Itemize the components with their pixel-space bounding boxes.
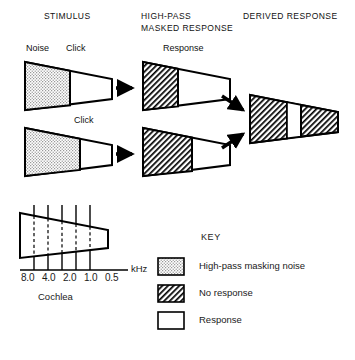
label-click-row2: Click: [74, 116, 94, 125]
label-response: Response: [163, 44, 204, 53]
diagram-graphics: [0, 0, 355, 360]
key-swatch-response: [158, 312, 184, 329]
cochlea-trapezoid: [20, 205, 128, 270]
cochlea-label: Cochlea: [38, 292, 73, 302]
column-heading-derived-response: DERIVED RESPONSE: [243, 12, 338, 21]
arrow-row2-to-derived: [222, 134, 243, 148]
key-label-high-pass-masking-noise: High-pass masking noise: [199, 261, 305, 271]
frequency-tick-1-0: 1.0: [84, 273, 97, 284]
masked-response-trapezoid-row2: [143, 128, 230, 176]
stimulus-trapezoid-row2: [25, 128, 112, 176]
masked-response-trapezoid-row1: [143, 62, 230, 110]
key-label-no-response: No response: [199, 288, 253, 298]
column-heading-high-pass-line1: HIGH-PASS: [141, 12, 191, 21]
frequency-tick-8-0: 8.0: [21, 273, 34, 284]
arrow-row1-to-derived: [222, 96, 243, 110]
frequency-tick-0-5: 0.5: [105, 273, 118, 284]
key-label-response: Response: [199, 315, 242, 325]
key-heading: KEY: [201, 233, 221, 242]
column-heading-stimulus: STIMULUS: [44, 12, 91, 21]
stimulus-trapezoid-row1: [25, 62, 112, 110]
frequency-tick-2-0: 2.0: [63, 273, 76, 284]
key-swatch-high-pass-masking-noise: [158, 258, 184, 275]
figure-canvas: STIMULUS HIGH-PASS MASKED RESPONSE DERIV…: [0, 0, 355, 360]
label-click-row1: Click: [66, 44, 86, 53]
frequency-tick-4-0: 4.0: [42, 273, 55, 284]
label-noise: Noise: [26, 44, 49, 53]
key-swatch-no-response: [158, 285, 184, 302]
column-heading-high-pass-line2: MASKED RESPONSE: [141, 24, 233, 33]
frequency-axis-unit: kHz: [131, 264, 147, 274]
derived-response-trapezoid: [250, 95, 338, 143]
